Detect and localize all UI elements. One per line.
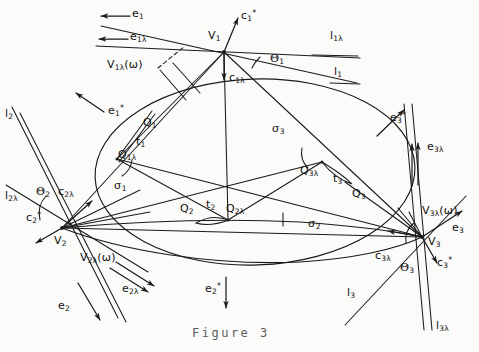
v1-lambda-foot <box>160 70 186 100</box>
side-v2-v3 <box>62 228 422 237</box>
label-q1: Q1 <box>143 117 157 129</box>
label-c1-lambda: c1λ <box>229 72 245 84</box>
vector-e2-arrow <box>78 283 100 320</box>
label-c1-star: c1* <box>241 10 256 23</box>
label-e1-lambda: e1λ <box>130 31 147 43</box>
label-theta2: Θ2 <box>36 186 50 198</box>
line-l3-lambda <box>404 104 424 330</box>
label-t1: t1 <box>136 136 146 148</box>
label-l1-lambda: l1λ <box>330 30 343 42</box>
label-e1: e1 <box>132 8 144 20</box>
label-v3-lambda-omega: V3λ(ω) <box>422 205 458 217</box>
side-v3-v1 <box>224 52 422 237</box>
diagram-canvas <box>0 0 479 352</box>
label-theta3: Θ3 <box>400 262 414 274</box>
v1-lambda-foot-2 <box>173 63 200 93</box>
label-v1: V1 <box>208 30 221 42</box>
label-t3: t3 <box>333 173 343 185</box>
secondary-conic-arc <box>62 228 422 263</box>
label-c3-star: c3* <box>437 257 452 270</box>
label-t2: t2 <box>206 199 216 211</box>
label-v1-lambda-omega: V1λ(ω) <box>107 59 143 71</box>
cevian-v3-q1l <box>117 159 422 237</box>
figure-3-diagram: e1 e1λ e1* V1 c1* c1λ l1λ l1 Θ1 V1λ(ω) l… <box>0 0 479 352</box>
label-e2: e2 <box>58 300 70 312</box>
label-l2-lambda: l2λ <box>5 190 18 202</box>
label-e3-star: e3* <box>390 112 406 125</box>
label-e3: e3 <box>452 222 464 234</box>
figure-caption: Figure 3 <box>192 326 270 340</box>
label-sigma2: σ2 <box>308 218 321 230</box>
line-l2-lambda <box>6 185 148 272</box>
label-e2-lambda: e2λ <box>122 283 139 295</box>
label-theta1: Θ1 <box>270 53 284 65</box>
label-c3-lambda: c3λ <box>375 250 391 262</box>
label-q3: Q3 <box>352 188 366 200</box>
vector-c1-star-arrow <box>224 18 238 52</box>
label-q1-lambda: Q1λ <box>118 149 136 161</box>
label-sigma3: σ3 <box>272 123 285 135</box>
label-e3-lambda: e3λ <box>427 141 444 153</box>
vertex-point-v3 <box>420 235 424 239</box>
label-c2-star: c2* <box>26 212 41 225</box>
label-v2-lambda-omega: V2λ(ω) <box>80 252 116 264</box>
label-c2-lambda: c2λ <box>58 186 74 198</box>
contact-point-q3-lambda <box>321 161 324 164</box>
vertex-point-v1 <box>222 50 226 54</box>
label-q3-lambda: Q3λ <box>300 165 318 177</box>
label-v2: V2 <box>54 235 67 247</box>
label-q2-lambda: Q2λ <box>226 203 244 215</box>
vector-e1-star-arrow <box>76 93 104 112</box>
theta1-angle-arc <box>252 57 260 68</box>
label-e1-star: e1* <box>108 105 124 118</box>
label-l3: l3 <box>347 287 355 299</box>
contact-point-q2-lambda <box>227 219 230 222</box>
label-q2: Q2 <box>180 203 194 215</box>
label-l3-lambda: l3λ <box>436 320 449 332</box>
label-e2-star: e2* <box>205 283 221 296</box>
label-sigma1: σ1 <box>114 180 127 192</box>
label-l1: l1 <box>334 66 342 78</box>
vertex-point-v2 <box>60 226 64 230</box>
label-l2: l2 <box>5 108 13 120</box>
label-v3: V3 <box>428 236 441 248</box>
